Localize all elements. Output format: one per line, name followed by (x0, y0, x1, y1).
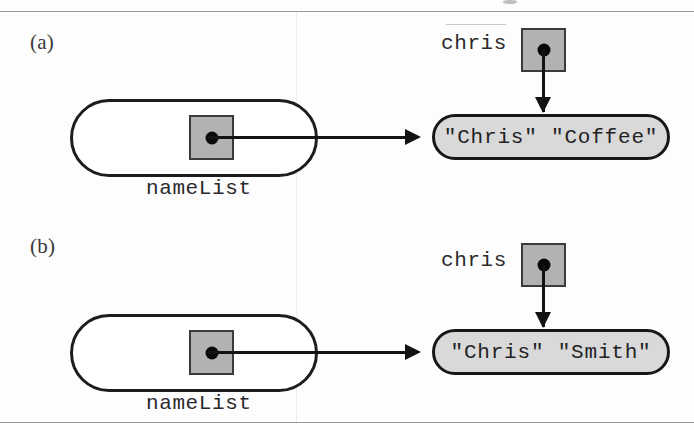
panel-b-letter: (b) (30, 234, 55, 259)
panel-b-list-arrow-shaft (208, 351, 411, 354)
panel-b-list-arrow-head (405, 344, 421, 360)
panel-b-value-text: "Chris" "Smith" (450, 342, 651, 363)
panel-a-value-text: "Chris" "Coffee" (444, 127, 658, 148)
pointer-reference-figure: (a) chris nameList "Chris" "Coffee" (b) … (0, 0, 694, 430)
panel-a-value-object[interactable]: "Chris" "Coffee" (432, 114, 670, 160)
panel-b-namelist-label: nameList (146, 392, 252, 415)
panel-a-list-arrow-head (405, 129, 421, 145)
cropped-underline-artifact (446, 24, 506, 25)
panel-a-chris-arrow-head (535, 97, 551, 113)
panel-a-namelist-label: nameList (146, 177, 252, 200)
panel-a-chris-label: chris (441, 32, 507, 55)
panel-a-letter: (a) (30, 30, 54, 55)
bottom-horizontal-rule (0, 422, 694, 423)
panel-b-value-object[interactable]: "Chris" "Smith" (432, 329, 670, 375)
panel-a-list-arrow-shaft (208, 136, 411, 139)
top-horizontal-rule (0, 11, 694, 12)
cropped-text-artifact (503, 0, 517, 4)
panel-b-chris-label: chris (441, 249, 507, 272)
panel-b-chris-arrow-head (535, 312, 551, 328)
